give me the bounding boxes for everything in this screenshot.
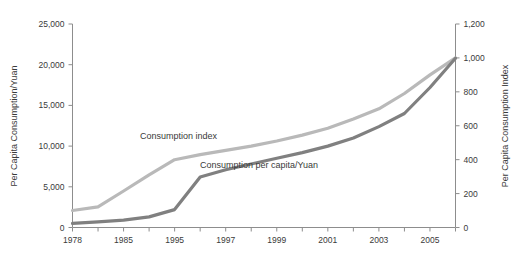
y-left-tick-label: 5,000 [43, 182, 65, 192]
x-tick-label: 1995 [165, 235, 184, 245]
y-left-tick-label: 20,000 [39, 60, 65, 70]
y-axis-right-ticks: 02004006008001,0001,200 [456, 19, 486, 233]
y-axis-right-title: Per Capita Consumption Index [500, 64, 510, 187]
series-annotation-2: Consumption per capita/Yuan [200, 160, 318, 170]
x-tick-label: 1985 [114, 235, 133, 245]
series-line-consumption-per-capita-yuan [73, 58, 456, 223]
y-left-tick-label: 10,000 [39, 141, 65, 151]
y-right-tick-label: 1,200 [464, 19, 486, 29]
y-axis-left-ticks: 05,00010,00015,00020,00025,000 [39, 19, 73, 233]
x-tick-label: 2001 [318, 235, 337, 245]
line-chart: 05,00010,00015,00020,00025,000 020040060… [0, 0, 522, 253]
y-right-tick-label: 0 [464, 223, 469, 233]
x-tick-label: 1999 [267, 235, 286, 245]
x-tick-label: 1997 [216, 235, 235, 245]
x-axis-ticks: 19781985199519971999200120032005 [63, 228, 455, 245]
series-annotation-1: Consumption index [140, 131, 218, 141]
y-left-tick-label: 15,000 [39, 100, 65, 110]
x-tick-label: 2003 [369, 235, 388, 245]
y-right-tick-label: 800 [464, 87, 478, 97]
chart-container: 05,00010,00015,00020,00025,000 020040060… [0, 0, 522, 253]
y-left-tick-label: 0 [60, 223, 65, 233]
y-axis-left-title: Per Capita Consumption/Yuan [9, 65, 19, 186]
series-line-consumption-index [73, 58, 456, 211]
y-left-tick-label: 25,000 [39, 19, 65, 29]
x-tick-label: 1978 [63, 235, 82, 245]
y-right-tick-label: 400 [464, 155, 478, 165]
y-right-tick-label: 600 [464, 121, 478, 131]
y-right-tick-label: 200 [464, 189, 478, 199]
x-tick-label: 2005 [421, 235, 440, 245]
y-right-tick-label: 1,000 [464, 53, 486, 63]
series-lines [73, 58, 456, 224]
